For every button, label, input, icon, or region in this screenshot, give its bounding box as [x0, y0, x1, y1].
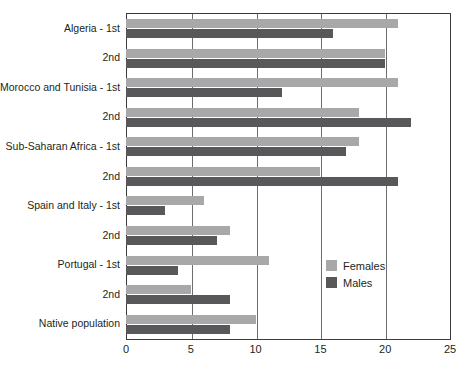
- bar-group: [126, 73, 450, 103]
- bar-females: [126, 226, 230, 235]
- x-tick-label: 5: [188, 343, 194, 356]
- bar-group: [126, 14, 450, 44]
- bar-males: [126, 88, 282, 97]
- y-axis-label: 2nd: [0, 52, 120, 63]
- chart-legend: FemalesMales: [326, 258, 422, 292]
- legend-swatch-icon: [326, 277, 337, 288]
- legend-swatch-icon: [326, 260, 337, 271]
- bar-group: [126, 191, 450, 221]
- bar-females: [126, 78, 398, 87]
- bar-group: [126, 309, 450, 339]
- bar-females: [126, 285, 191, 294]
- x-tick-label: 20: [379, 343, 391, 356]
- bar-females: [126, 49, 385, 58]
- bar-males: [126, 266, 178, 275]
- bar-males: [126, 325, 230, 334]
- bar-males: [126, 59, 385, 68]
- legend-item: Males: [326, 275, 422, 290]
- bar-group: [126, 44, 450, 74]
- bar-males: [126, 29, 333, 38]
- bar-females: [126, 137, 359, 146]
- bar-group: [126, 221, 450, 251]
- bar-group: [126, 162, 450, 192]
- x-tick-label: 25: [444, 343, 456, 356]
- bar-females: [126, 315, 256, 324]
- x-tick-label: 15: [314, 343, 326, 356]
- legend-label: Females: [343, 260, 385, 272]
- x-tick-label: 10: [249, 343, 261, 356]
- bar-chart: Algeria - 1st2ndMorocco and Tunisia - 1s…: [0, 0, 459, 375]
- bar-females: [126, 256, 269, 265]
- bar-females: [126, 196, 204, 205]
- bar-group: [126, 132, 450, 162]
- bar-males: [126, 206, 165, 215]
- bar-males: [126, 147, 346, 156]
- bar-gap: [126, 205, 450, 206]
- y-axis-label: 2nd: [0, 230, 120, 241]
- bar-males: [126, 177, 398, 186]
- y-axis-label: 2nd: [0, 111, 120, 122]
- y-axis-label: 2nd: [0, 289, 120, 300]
- bar-females: [126, 108, 359, 117]
- bar-males: [126, 118, 411, 127]
- y-axis-label: Sub-Saharan Africa - 1st: [0, 141, 120, 152]
- legend-label: Males: [343, 277, 372, 289]
- y-axis-labels: Algeria - 1st2ndMorocco and Tunisia - 1s…: [0, 14, 120, 339]
- x-tick-label: 0: [123, 343, 129, 356]
- y-axis-label: Algeria - 1st: [0, 23, 120, 34]
- bar-females: [126, 167, 320, 176]
- bar-group: [126, 103, 450, 133]
- y-axis-label: Portugal - 1st: [0, 259, 120, 270]
- bar-males: [126, 295, 230, 304]
- bar-females: [126, 19, 398, 28]
- bar-males: [126, 236, 217, 245]
- y-axis-label: Morocco and Tunisia - 1st: [0, 82, 120, 93]
- x-axis-ticks: 0510152025: [0, 343, 459, 361]
- legend-item: Females: [326, 258, 422, 273]
- y-axis-label: Spain and Italy - 1st: [0, 200, 120, 211]
- y-axis-label: Native population: [0, 318, 120, 329]
- y-axis-label: 2nd: [0, 171, 120, 182]
